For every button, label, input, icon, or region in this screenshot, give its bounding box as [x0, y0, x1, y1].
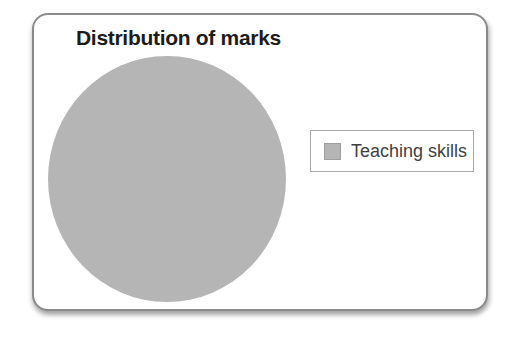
chart-card: Distribution of marks Teaching skills	[32, 13, 488, 311]
legend-label-teaching-skills: Teaching skills	[351, 141, 467, 162]
chart-title: Distribution of marks	[76, 26, 281, 50]
pie-slice-teaching-skills	[48, 56, 286, 302]
legend-box: Teaching skills	[310, 130, 474, 172]
page-background: Distribution of marks Teaching skills	[0, 0, 515, 340]
legend-swatch-teaching-skills	[324, 143, 341, 160]
pie-chart	[48, 56, 286, 302]
